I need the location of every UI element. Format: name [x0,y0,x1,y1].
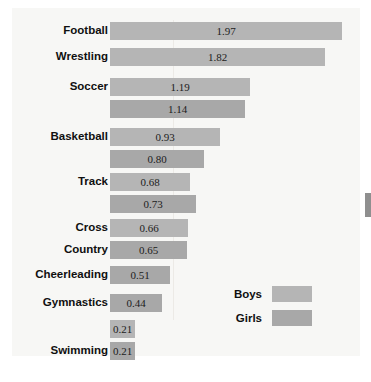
category-label: Country [0,243,108,256]
bar-value-label: 0.21 [110,320,135,338]
bar-row: Swimming0.21 [12,342,360,360]
bar-row: Soccer1.19 [12,78,360,96]
category-label: Wrestling [0,50,108,63]
scan-edge-artifact [365,193,371,217]
bar-value-label: 0.51 [110,266,170,284]
category-label: Soccer [0,80,108,93]
bar-row: 0.73 [12,195,360,213]
bar-row: Country0.65 [12,241,360,259]
legend-swatch-boys [272,286,312,302]
category-label: Swimming [0,344,108,357]
legend-item-girls: Girls [208,309,348,327]
bar-row: Wrestling1.82 [12,48,360,66]
bar-value-label: 0.73 [110,195,196,213]
bar-row: Cheerleading0.51 [12,266,360,284]
bar-girls: 0.51 [110,266,170,284]
bar-value-label: 0.65 [110,241,187,259]
legend-label-boys: Boys [208,285,262,303]
bar-value-label: 0.44 [110,294,162,312]
bar-row: Basketball0.93 [12,128,360,146]
bar-girls: 0.80 [110,150,204,168]
legend-swatch-girls [272,310,312,326]
bar-boys: 0.93 [110,128,220,146]
bar-boys: 1.82 [110,48,325,66]
bar-value-label: 0.93 [110,128,220,146]
bar-row: Cross0.66 [12,219,360,237]
legend-label-girls: Girls [208,309,262,327]
bar-boys: 1.19 [110,78,250,96]
chart-legend: Boys Girls [208,285,348,333]
figure-caption [10,370,360,380]
bar-girls: 0.44 [110,294,162,312]
bar-row: Football1.97 [12,22,360,40]
bar-row: 1.14 [12,100,360,118]
bar-boys: 0.68 [110,173,190,191]
bar-value-label: 1.82 [110,48,325,66]
bar-row: Track0.68 [12,173,360,191]
bar-value-label: 1.97 [110,22,342,40]
bar-girls: 0.65 [110,241,187,259]
figure-container: Football1.97Wrestling1.82Soccer1.191.14B… [0,0,371,382]
bar-girls: 1.14 [110,100,245,118]
bar-girls: 0.73 [110,195,196,213]
chart-panel: Football1.97Wrestling1.82Soccer1.191.14B… [12,8,360,356]
bar-value-label: 0.21 [110,342,135,360]
legend-item-boys: Boys [208,285,348,303]
category-label: Cheerleading [0,268,108,281]
bar-value-label: 1.14 [110,100,245,118]
category-label: Basketball [0,130,108,143]
category-label: Cross [0,221,108,234]
bar-boys: 0.21 [110,320,135,338]
bar-girls: 0.21 [110,342,135,360]
bar-value-label: 0.68 [110,173,190,191]
bar-row: 0.80 [12,150,360,168]
bar-value-label: 0.80 [110,150,204,168]
bar-boys: 1.97 [110,22,342,40]
bar-boys: 0.66 [110,219,188,237]
category-label: Football [0,24,108,37]
bar-value-label: 0.66 [110,219,188,237]
bar-value-label: 1.19 [110,78,250,96]
category-label: Track [0,175,108,188]
category-label: Gymnastics [0,296,108,309]
